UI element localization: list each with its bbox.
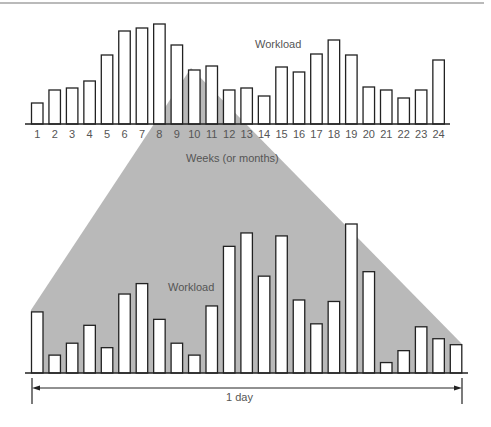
bar [241, 88, 253, 124]
top-chart-bars [32, 24, 445, 124]
bottom-workload-label: Workload [168, 281, 214, 293]
bar [328, 40, 340, 124]
bar [206, 66, 218, 124]
bar [293, 72, 305, 124]
bar [363, 272, 375, 373]
bar [433, 60, 445, 124]
bar [49, 90, 61, 124]
bar [346, 55, 358, 124]
bar [363, 87, 375, 124]
bar [154, 319, 166, 373]
bar [433, 339, 445, 373]
bar [223, 90, 235, 124]
bar [381, 363, 393, 373]
bar [119, 31, 131, 124]
workload-zoom-diagram: 123456789101112131415161718192021222324 … [0, 0, 491, 427]
tick-label: 23 [415, 128, 427, 140]
arrowhead-right-icon [454, 386, 462, 391]
arrowhead-left-icon [32, 386, 40, 391]
bar [223, 246, 235, 373]
bar [258, 96, 270, 124]
tick-label: 11 [206, 128, 217, 140]
bar [84, 81, 96, 124]
tick-label: 10 [188, 128, 200, 140]
tick-label: 13 [241, 128, 253, 140]
tick-label: 14 [258, 128, 270, 140]
bar [398, 98, 410, 124]
tick-label: 2 [52, 128, 58, 140]
bar [154, 24, 166, 124]
bar [258, 276, 270, 373]
tick-label: 6 [121, 128, 127, 140]
tick-label: 15 [275, 128, 287, 140]
bar [241, 233, 253, 373]
tick-label: 4 [87, 128, 93, 140]
bar [101, 55, 113, 124]
tick-label: 1 [34, 128, 40, 140]
bar [32, 103, 44, 124]
bar [171, 343, 183, 373]
bar [450, 345, 462, 373]
top-workload-label: Workload [255, 38, 301, 50]
bar [276, 236, 288, 373]
tick-label: 19 [345, 128, 357, 140]
bar [346, 224, 358, 373]
tick-label: 16 [293, 128, 305, 140]
tick-label: 7 [139, 128, 145, 140]
tick-label: 9 [174, 128, 180, 140]
bar [32, 312, 44, 373]
tick-label: 22 [398, 128, 410, 140]
bar [328, 301, 340, 373]
bar [189, 355, 201, 373]
bar [311, 54, 323, 124]
bar [66, 88, 78, 124]
bar [49, 355, 61, 373]
bar [276, 67, 288, 124]
tick-label: 21 [380, 128, 392, 140]
tick-label: 8 [156, 128, 162, 140]
bar [136, 284, 148, 373]
tick-label: 17 [310, 128, 322, 140]
tick-label: 12 [223, 128, 235, 140]
bar [101, 348, 113, 373]
bar [381, 90, 393, 124]
bar [293, 300, 305, 373]
bar [136, 28, 148, 124]
span-label: 1 day [226, 391, 253, 403]
bar [189, 70, 201, 124]
bar [415, 327, 427, 373]
tick-label: 5 [104, 128, 110, 140]
tick-label: 24 [432, 128, 444, 140]
bar [119, 294, 131, 373]
bar [66, 343, 78, 373]
x-axis-label: Weeks (or months) [186, 152, 279, 164]
bar [311, 324, 323, 373]
bar [84, 325, 96, 373]
tick-label: 3 [69, 128, 75, 140]
tick-label: 18 [328, 128, 340, 140]
tick-label: 20 [363, 128, 375, 140]
bar [415, 90, 427, 124]
bar [398, 351, 410, 373]
bar [171, 45, 183, 124]
bar [206, 306, 218, 373]
